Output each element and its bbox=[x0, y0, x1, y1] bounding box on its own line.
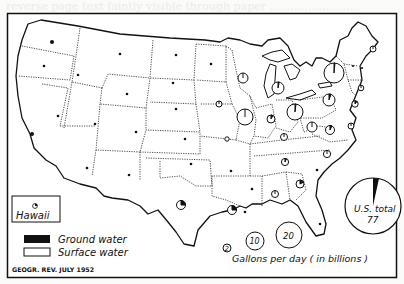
pie-pennsylvania bbox=[323, 94, 335, 106]
pie-wisconsin bbox=[238, 73, 248, 83]
pie-new-york bbox=[324, 63, 344, 83]
pie-west-virginia bbox=[307, 122, 317, 132]
pie-missouri bbox=[225, 137, 229, 141]
map-figure: Hawaii Ground water Surface water GEOGR.… bbox=[0, 0, 404, 284]
pie-georgia bbox=[296, 180, 304, 188]
legend-ground-water: Ground water bbox=[58, 234, 128, 245]
pie-kentucky bbox=[281, 134, 288, 141]
scale-20: 20 bbox=[283, 231, 294, 241]
us-total-pie: U.S. total 77 bbox=[345, 178, 401, 234]
hawaii-inset: Hawaii bbox=[12, 196, 60, 222]
pie-alabama bbox=[272, 191, 279, 198]
pie-massachusetts bbox=[358, 85, 364, 91]
pie-north-carolina bbox=[323, 150, 330, 157]
scale-2: 2 bbox=[225, 245, 230, 253]
pie-new-jersey bbox=[352, 101, 358, 107]
source-citation: GEOGR. REV. JULY 1952 bbox=[12, 266, 94, 274]
pie-iowa bbox=[216, 101, 222, 107]
us-total-label: U.S. total bbox=[354, 204, 396, 214]
pie-indiana bbox=[267, 115, 275, 123]
pie-louisiana bbox=[228, 206, 237, 215]
hawaii-label: Hawaii bbox=[16, 210, 50, 221]
pie-maryland bbox=[348, 123, 354, 129]
pie-tennessee bbox=[281, 158, 288, 165]
pie-virginia bbox=[326, 126, 335, 135]
scale-caption: Gallons per day ( in billions ) bbox=[232, 253, 368, 264]
pie-ohio bbox=[287, 104, 303, 120]
legend-surface-water: Surface water bbox=[58, 247, 129, 258]
pie-michigan bbox=[272, 82, 284, 94]
surface-water-swatch bbox=[24, 248, 50, 256]
ground-water-swatch bbox=[24, 235, 50, 243]
pie-texas bbox=[177, 201, 186, 210]
scale-10: 10 bbox=[250, 237, 260, 246]
pie-illinois bbox=[237, 109, 253, 125]
us-total-value: 77 bbox=[367, 215, 379, 225]
pie-maine bbox=[370, 46, 376, 52]
